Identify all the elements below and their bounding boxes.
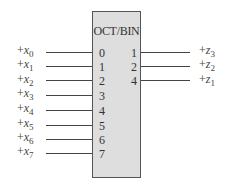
- input-pin-3: 3: [99, 90, 105, 102]
- output-label-z2: +z2: [199, 58, 215, 70]
- input-wire-x4: [46, 110, 92, 111]
- input-label-x3: +x3: [17, 87, 34, 99]
- input-label-x4: +x4: [17, 102, 34, 114]
- output-label-z3: +z3: [199, 44, 215, 56]
- input-label-x5: +x5: [17, 117, 34, 129]
- output-wire-z3: [141, 52, 190, 53]
- input-pin-4: 4: [99, 105, 105, 117]
- output-pin-1: 1: [131, 47, 137, 59]
- output-pin-4: 4: [131, 75, 137, 87]
- input-pin-0: 0: [99, 47, 105, 59]
- input-label-x2: +x2: [17, 73, 34, 85]
- output-pin-2: 2: [131, 61, 137, 73]
- output-wire-z1: [141, 80, 190, 81]
- input-wire-x0: [46, 52, 92, 53]
- input-wire-x7: [46, 153, 92, 154]
- input-wire-x6: [46, 139, 92, 140]
- oct-bin-encoder-block: OCT/BIN 0 1 2 3 4 5 6 7 1 2 4: [92, 11, 141, 178]
- input-label-x7: +x7: [17, 145, 34, 157]
- input-label-x0: +x0: [17, 44, 34, 56]
- block-title: OCT/BIN: [93, 24, 140, 39]
- output-wire-z2: [141, 66, 190, 67]
- input-label-x6: +x6: [17, 131, 34, 143]
- input-wire-x5: [46, 125, 92, 126]
- input-wire-x2: [46, 80, 92, 81]
- input-pin-1: 1: [99, 61, 105, 73]
- input-label-x1: +x1: [17, 58, 34, 70]
- input-wire-x3: [46, 95, 92, 96]
- input-pin-7: 7: [99, 148, 105, 160]
- input-pin-6: 6: [99, 134, 105, 146]
- input-wire-x1: [46, 66, 92, 67]
- output-label-z1: +z1: [199, 73, 215, 85]
- input-pin-2: 2: [99, 75, 105, 87]
- input-pin-5: 5: [99, 120, 105, 132]
